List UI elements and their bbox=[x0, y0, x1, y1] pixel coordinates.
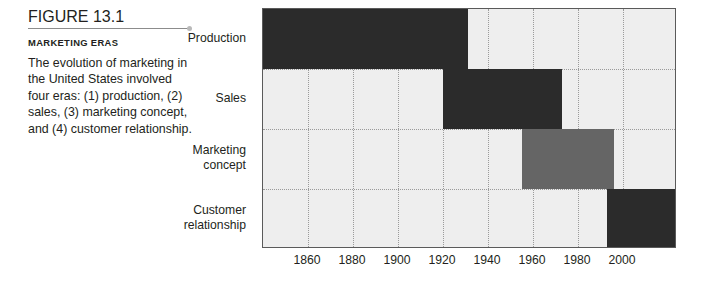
bar-marketing-concept bbox=[522, 129, 614, 189]
bar-sales bbox=[443, 69, 562, 129]
x-axis-label-group: 18601880190019201940196019802000 bbox=[0, 252, 708, 274]
y-axis-label-marketing-concept: Marketing concept bbox=[26, 143, 246, 173]
marketing-eras-timeline-chart bbox=[262, 8, 676, 248]
y-axis-label-group: ProductionSalesMarketing conceptCustomer… bbox=[0, 8, 252, 248]
x-axis-label-1940: 1940 bbox=[465, 252, 509, 268]
y-axis-label-sales: Sales bbox=[26, 91, 246, 106]
x-axis-label-1860: 1860 bbox=[285, 252, 329, 268]
x-axis-label-1880: 1880 bbox=[330, 252, 374, 268]
bar-production bbox=[263, 9, 468, 69]
plot-area bbox=[262, 8, 676, 248]
x-axis-label-2000: 2000 bbox=[600, 252, 644, 268]
x-axis-label-1920: 1920 bbox=[420, 252, 464, 268]
y-axis-label-customer-relationship: Customer relationship bbox=[26, 203, 246, 233]
gridline-vertical-1980 bbox=[578, 9, 579, 247]
x-axis-label-1980: 1980 bbox=[555, 252, 599, 268]
y-axis-label-production: Production bbox=[26, 31, 246, 46]
x-axis-label-1900: 1900 bbox=[375, 252, 419, 268]
x-axis-label-1960: 1960 bbox=[510, 252, 554, 268]
bar-customer-relationship bbox=[607, 189, 676, 248]
